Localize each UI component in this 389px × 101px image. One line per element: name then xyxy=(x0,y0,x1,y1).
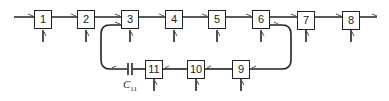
diagram-wires xyxy=(0,0,389,101)
block-3-label: 3 xyxy=(127,14,133,25)
capacitor-label: C11 xyxy=(123,78,137,93)
block-8-label: 8 xyxy=(348,15,354,26)
block-2-label: 2 xyxy=(83,14,89,25)
block-5: 5 xyxy=(208,10,226,29)
block-9-label: 9 xyxy=(238,64,244,75)
block-3: 3 xyxy=(121,10,139,29)
block-1: 1 xyxy=(34,10,52,29)
block-4-label: 4 xyxy=(171,14,177,25)
block-2: 2 xyxy=(77,10,95,29)
block-5-label: 5 xyxy=(214,14,220,25)
block-6: 6 xyxy=(252,10,270,29)
block-8: 8 xyxy=(342,11,360,30)
block-6-label: 6 xyxy=(258,14,264,25)
block-10-label: 10 xyxy=(190,64,202,75)
block-1-label: 1 xyxy=(40,14,46,25)
capacitor-subscript: 11 xyxy=(130,85,137,93)
block-9: 9 xyxy=(232,60,250,79)
block-10: 10 xyxy=(187,60,205,79)
block-7-label: 7 xyxy=(303,15,309,26)
block-4: 4 xyxy=(165,10,183,29)
block-11: 11 xyxy=(145,60,163,79)
block-7: 7 xyxy=(297,11,315,30)
block-11-label: 11 xyxy=(148,64,159,75)
